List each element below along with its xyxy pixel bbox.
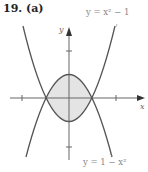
y-axis-arrow-icon [66,27,72,36]
upper-curve-equation: y = x² − 1 [86,7,129,17]
y-axis-label: y [59,25,64,34]
parabola-region-diagram [0,0,148,172]
lower-curve-equation: y = 1 − x² [83,157,126,167]
x-axis-arrow-icon [137,95,145,101]
upper-label-leader [116,24,117,27]
x-axis-label: x [140,102,145,111]
